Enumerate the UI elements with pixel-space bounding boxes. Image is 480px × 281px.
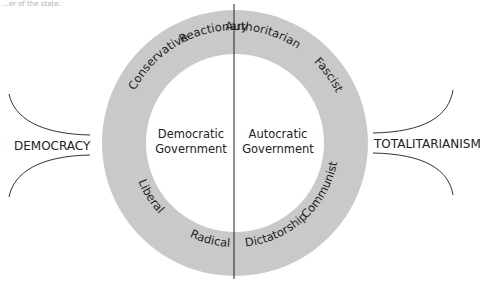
autocratic-government-line1: Autocratic	[249, 127, 308, 141]
totalitarianism-upper-curve	[373, 90, 453, 133]
democracy-lower-curve	[9, 155, 90, 197]
democratic-government-line1: Democratic	[158, 127, 224, 141]
political-spectrum-diagram: ...er of the state. DEMOCRACY TOTALITARI…	[0, 0, 480, 281]
autocratic-government-line2: Government	[242, 142, 314, 156]
democracy-label: DEMOCRACY	[14, 139, 91, 153]
democracy-upper-curve	[9, 94, 90, 135]
democratic-government-line2: Government	[155, 142, 227, 156]
totalitarianism-label: TOTALITARIANISM	[373, 137, 480, 151]
cutoff-caption: ...er of the state.	[2, 0, 61, 8]
ideology-ring	[102, 10, 368, 276]
totalitarianism-lower-curve	[373, 153, 453, 195]
